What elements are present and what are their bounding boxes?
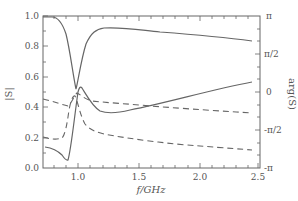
x-axis-title: f/GHz [135,184,166,195]
y-tick-label: 0.0 [25,163,40,173]
right-y-axis-title: arg(S) [287,78,298,110]
y2-tick-label: π [266,11,272,21]
left-y-axis-title: |S| [3,87,15,101]
left-y-tick-labels: 0.0 0.2 0.4 0.6 0.8 1.0 [25,11,40,173]
x-tick-label: 1.0 [71,172,86,182]
x-tick-label: 2.5 [251,172,266,182]
y2-tick-label: -π/2 [264,125,282,135]
x-tick-label: 1.5 [132,172,147,182]
y-tick-label: 0.4 [25,102,40,112]
y-tick-label: 1.0 [25,11,40,21]
right-y-tick-labels: -π -π/2 0 π/2 π [264,11,282,173]
y2-tick-label: π/2 [264,49,279,59]
plot-frame [43,16,260,168]
left-y-ticks [43,16,48,153]
right-y-ticks [255,29,260,155]
magnitude-curve-upper [43,17,252,89]
s-parameter-chart: 1.0 1.5 2.0 2.5 0.0 0.2 0.4 0.6 0.8 1.0 … [0,0,298,201]
y2-tick-label: 0 [266,87,272,97]
x-tick-labels: 1.0 1.5 2.0 2.5 [71,172,266,182]
y2-tick-label: -π [264,163,273,173]
y-tick-label: 0.2 [25,133,39,143]
x-tick-label: 2.0 [193,172,208,182]
y-tick-label: 0.6 [25,72,40,82]
y-tick-label: 0.8 [25,41,40,51]
